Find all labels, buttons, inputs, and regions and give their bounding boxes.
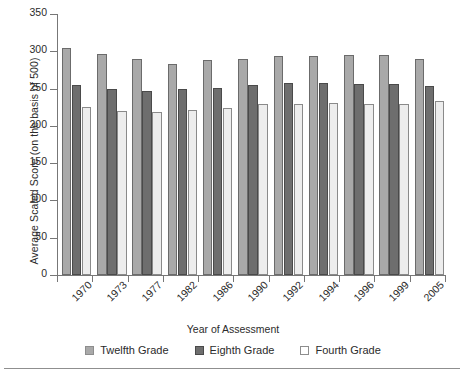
y-axis-tick: 150 — [50, 163, 57, 164]
y-axis-tick-label: 350 — [13, 6, 47, 18]
x-axis-tick — [128, 275, 129, 282]
x-axis-tick-label: 1990 — [245, 278, 270, 303]
legend-swatch-eighth — [195, 346, 204, 355]
x-axis-line — [57, 275, 446, 276]
bar — [284, 83, 294, 275]
bar-chart-figure: Average Scaled Score (on the basis of 50… — [0, 0, 466, 378]
bar — [319, 83, 329, 275]
bar-group — [203, 14, 233, 275]
y-axis-tick-label: 250 — [13, 81, 47, 93]
x-axis-tick — [339, 275, 340, 282]
footer-divider — [4, 368, 460, 369]
legend-label: Eighth Grade — [210, 344, 275, 356]
x-axis-tick — [233, 275, 234, 282]
bar — [152, 112, 162, 275]
bar — [399, 104, 409, 275]
bar-group — [344, 14, 374, 275]
bar-group — [309, 14, 339, 275]
x-axis-title: Year of Assessment — [0, 323, 466, 335]
x-axis-tick-label: 1986 — [210, 278, 235, 303]
y-axis-tick: 300 — [50, 51, 57, 52]
plot-area: 050100150200250300350 197019731977198219… — [57, 14, 445, 275]
x-axis-tick-label: 1996 — [351, 278, 376, 303]
x-axis-tick-label: 1970 — [69, 278, 94, 303]
x-axis-tick — [410, 275, 411, 282]
bar-group — [274, 14, 304, 275]
bar — [425, 86, 435, 275]
y-axis-line — [57, 14, 58, 276]
bar — [309, 56, 319, 275]
legend-label: Fourth Grade — [315, 344, 380, 356]
legend-item[interactable]: Fourth Grade — [300, 344, 380, 356]
bar-group — [238, 14, 268, 275]
x-axis-tick — [269, 275, 270, 282]
bar-group — [379, 14, 409, 275]
x-axis-tick-label: 1977 — [139, 278, 164, 303]
bar — [168, 64, 178, 275]
bar — [379, 55, 389, 275]
bar — [274, 56, 284, 275]
x-axis-tick — [445, 275, 446, 282]
bar-group — [62, 14, 92, 275]
x-axis-tick — [57, 275, 58, 282]
y-axis-tick-label: 100 — [13, 192, 47, 204]
bar — [415, 59, 425, 275]
bar-group — [415, 14, 445, 275]
bar — [117, 111, 127, 275]
bar — [248, 85, 258, 275]
y-axis-tick-label: 0 — [13, 267, 47, 279]
bar — [354, 84, 364, 275]
legend-item[interactable]: Twelfth Grade — [85, 344, 168, 356]
y-axis-tick-label: 150 — [13, 155, 47, 167]
bar — [294, 104, 304, 276]
x-axis-tick-label: 1994 — [316, 278, 341, 303]
bar — [203, 60, 213, 275]
x-axis-tick-label: 2005 — [421, 278, 446, 303]
bar — [132, 59, 142, 275]
bar — [389, 84, 399, 275]
y-axis-tick: 50 — [50, 238, 57, 239]
bar — [97, 54, 107, 275]
legend-label: Twelfth Grade — [100, 344, 168, 356]
legend-item[interactable]: Eighth Grade — [195, 344, 275, 356]
y-axis-tick: 0 — [50, 275, 57, 276]
bar — [107, 89, 117, 275]
x-axis-tick-label: 1973 — [104, 278, 129, 303]
x-axis-tick — [163, 275, 164, 282]
y-axis-tick: 350 — [50, 14, 57, 15]
y-axis-tick-label: 50 — [13, 230, 47, 242]
bar — [188, 110, 198, 275]
bar — [329, 103, 339, 275]
bar — [364, 104, 374, 276]
bar — [213, 88, 223, 275]
bar — [223, 108, 233, 275]
bar — [238, 59, 248, 275]
x-axis-tick — [92, 275, 93, 282]
x-axis-tick — [374, 275, 375, 282]
y-axis-tick: 250 — [50, 89, 57, 90]
bar-group — [97, 14, 127, 275]
bar — [82, 107, 92, 275]
x-axis-tick-label: 1992 — [280, 278, 305, 303]
chart-legend: Twelfth GradeEighth GradeFourth Grade — [0, 344, 466, 356]
y-axis-tick-label: 300 — [13, 43, 47, 55]
bar — [62, 48, 72, 275]
y-axis-tick: 100 — [50, 200, 57, 201]
legend-swatch-fourth — [300, 346, 309, 355]
x-axis-tick-label: 1999 — [386, 278, 411, 303]
bar — [258, 104, 268, 275]
bar — [344, 55, 354, 275]
bar — [72, 85, 82, 275]
legend-swatch-twelfth — [85, 346, 94, 355]
x-axis-tick — [304, 275, 305, 282]
y-axis-tick-label: 200 — [13, 118, 47, 130]
y-axis-tick: 200 — [50, 126, 57, 127]
bar — [435, 101, 445, 275]
x-axis-tick-label: 1982 — [174, 278, 199, 303]
bar — [178, 89, 188, 275]
bar — [142, 91, 152, 275]
bar-group — [132, 14, 162, 275]
x-axis-tick — [198, 275, 199, 282]
bar-group — [168, 14, 198, 275]
